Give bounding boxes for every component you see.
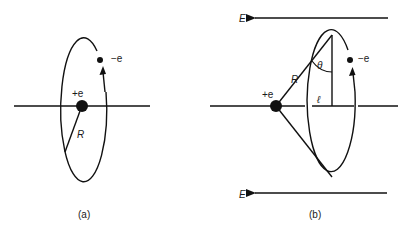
distance-label: ℓ xyxy=(316,94,321,105)
caption-a: (a) xyxy=(78,209,90,220)
field-label-top: E xyxy=(239,13,246,24)
nucleus-label: +e xyxy=(262,89,274,100)
radius-label: R xyxy=(291,74,298,85)
electron xyxy=(97,57,103,63)
radius-label: R xyxy=(77,129,84,140)
nucleus xyxy=(270,100,282,112)
cone-line-bottom xyxy=(276,106,332,177)
caption-b: (b) xyxy=(309,209,321,220)
panel-a: +e −e R (a) xyxy=(14,38,150,220)
nucleus xyxy=(76,100,88,112)
field-label-bottom: E xyxy=(239,189,246,200)
electron xyxy=(347,57,353,63)
nucleus-label: +e xyxy=(72,88,84,99)
panel-b: E E +e −e R θ ℓ (b) xyxy=(210,13,398,220)
angle-label: θ xyxy=(317,60,323,71)
orbit-direction-arrow xyxy=(349,67,356,76)
electron-label: −e xyxy=(111,53,123,64)
electron-label: −e xyxy=(358,53,370,64)
orbit-ellipse xyxy=(307,30,355,172)
atom-diagram: +e −e R (a) E E +e −e R θ ℓ (b) xyxy=(0,0,410,232)
